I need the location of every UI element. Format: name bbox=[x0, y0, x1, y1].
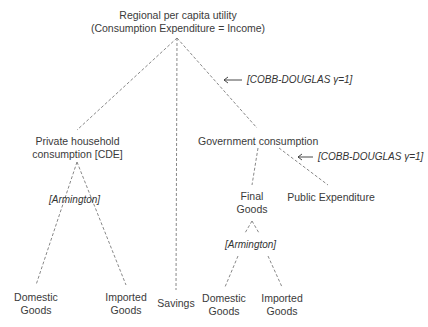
public-expenditure-label: Public Expenditure bbox=[286, 191, 376, 204]
root-title: Regional per capita utility bbox=[90, 9, 266, 22]
private-domestic-goods-node: Domestic Goods bbox=[10, 291, 62, 317]
gov-domestic-goods-node: Domestic Goods bbox=[198, 292, 250, 318]
savings-label: Savings bbox=[152, 297, 200, 310]
public-expenditure-node: Public Expenditure bbox=[286, 191, 376, 204]
private-household-line2: consumption [CDE] bbox=[20, 148, 135, 161]
top-cobb-douglas-label: [COBB-DOUGLAS γ=1] bbox=[247, 74, 352, 85]
gov-domestic-line2: Goods bbox=[198, 305, 250, 318]
private-household-node: Private household consumption [CDE] bbox=[20, 135, 135, 161]
tree-connectors bbox=[0, 0, 428, 327]
private-imported-line2: Goods bbox=[100, 304, 152, 317]
government-consumption-label: Government consumption bbox=[198, 135, 318, 148]
gov-imported-line2: Goods bbox=[256, 305, 308, 318]
private-imported-line1: Imported bbox=[100, 291, 152, 304]
final-goods-node: Final Goods bbox=[232, 190, 272, 216]
private-armington-label: [Armington] bbox=[49, 194, 100, 205]
private-household-line1: Private household bbox=[20, 135, 135, 148]
gov-imported-goods-node: Imported Goods bbox=[256, 292, 308, 318]
private-domestic-line2: Goods bbox=[10, 304, 62, 317]
root-node: Regional per capita utility (Consumption… bbox=[90, 9, 266, 35]
gov-imported-line1: Imported bbox=[256, 292, 308, 305]
private-imported-goods-node: Imported Goods bbox=[100, 291, 152, 317]
gov-armington-label: [Armington] bbox=[225, 239, 276, 250]
gov-cobb-douglas-label: [COBB-DOUGLAS γ=1] bbox=[318, 151, 423, 162]
final-goods-line1: Final bbox=[232, 190, 272, 203]
government-consumption-node: Government consumption bbox=[198, 135, 318, 148]
root-subtitle: (Consumption Expenditure = Income) bbox=[90, 22, 266, 35]
savings-node: Savings bbox=[152, 297, 200, 310]
final-goods-line2: Goods bbox=[232, 203, 272, 216]
private-domestic-line1: Domestic bbox=[10, 291, 62, 304]
gov-domestic-line1: Domestic bbox=[198, 292, 250, 305]
